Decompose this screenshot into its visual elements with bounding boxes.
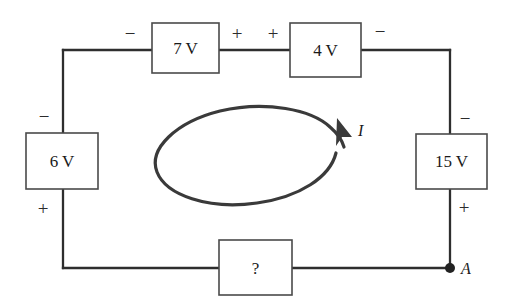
source-7v-left-polarity: − (125, 23, 136, 44)
source-6v-top-polarity: − (39, 106, 50, 127)
current-loop-arrow (155, 106, 352, 204)
circuit-diagram: 7 V 4 V 6 V 15 V ? − + + − (0, 0, 507, 307)
source-7v[interactable]: 7 V (152, 23, 219, 73)
source-6v-bottom-polarity: + (38, 198, 49, 219)
current-loop-path (155, 106, 344, 204)
node-a-label: A (460, 260, 471, 277)
source-15v-bottom-polarity: + (459, 197, 470, 218)
source-15v-top-polarity: − (460, 108, 471, 129)
wire-network (63, 50, 450, 268)
current-label: I (357, 122, 364, 139)
source-6v[interactable]: 6 V (26, 133, 98, 189)
node-a-dot (445, 263, 455, 273)
source-4v[interactable]: 4 V (290, 23, 361, 77)
source-4v-right-polarity: − (375, 21, 386, 42)
source-7v-right-polarity: + (232, 23, 243, 44)
source-15v[interactable]: 15 V (416, 134, 487, 189)
source-6v-label: 6 V (50, 152, 75, 171)
source-4v-left-polarity: + (268, 23, 279, 44)
source-4v-label: 4 V (313, 41, 338, 60)
unknown-element[interactable]: ? (219, 240, 292, 295)
current-arrowhead-icon (336, 118, 352, 146)
unknown-element-label: ? (252, 259, 260, 278)
source-15v-label: 15 V (435, 152, 469, 171)
circuit-canvas: 7 V 4 V 6 V 15 V ? − + + − (0, 0, 507, 307)
source-7v-label: 7 V (173, 39, 198, 58)
